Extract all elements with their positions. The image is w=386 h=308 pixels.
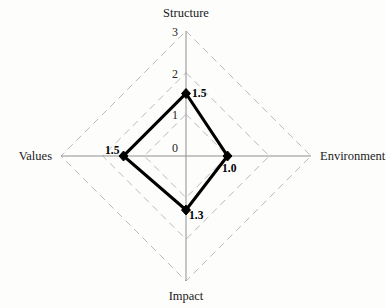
axis-label-values: Values bbox=[19, 149, 52, 163]
radar-chart-figure: 3 2 1 0 Structure Environment Impact Val… bbox=[0, 0, 386, 308]
axis-lines bbox=[61, 31, 311, 281]
axis-label-impact: Impact bbox=[169, 289, 204, 303]
value-label-structure: 1.5 bbox=[192, 87, 207, 99]
axis-label-environment: Environment bbox=[320, 149, 386, 163]
value-label-values: 1.5 bbox=[105, 144, 120, 156]
value-label-impact: 1.3 bbox=[189, 209, 204, 221]
tick-label-0: 0 bbox=[172, 141, 178, 155]
value-label-environment: 1.0 bbox=[222, 162, 237, 174]
tick-label-1: 1 bbox=[172, 108, 178, 122]
tick-label-3: 3 bbox=[172, 25, 178, 39]
axis-label-structure: Structure bbox=[163, 6, 209, 20]
axis-category-labels: Structure Environment Impact Values bbox=[19, 6, 386, 303]
tick-label-2: 2 bbox=[172, 67, 178, 81]
radar-chart-canvas: 3 2 1 0 Structure Environment Impact Val… bbox=[0, 0, 386, 308]
